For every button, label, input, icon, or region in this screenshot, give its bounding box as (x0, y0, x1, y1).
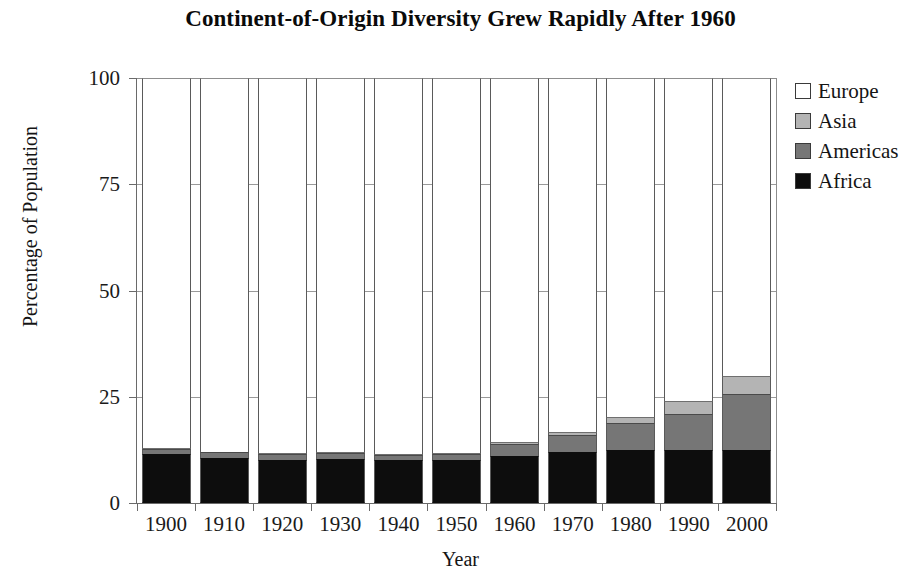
bar-1980[interactable] (606, 78, 655, 503)
bar-1900[interactable] (142, 78, 191, 503)
bar-segment-asia[interactable] (374, 454, 423, 455)
bar-1940[interactable] (374, 78, 423, 503)
legend-label: Europe (818, 81, 879, 102)
chart-title: Continent-of-Origin Diversity Grew Rapid… (0, 6, 921, 32)
y-axis-tick (129, 184, 136, 185)
bar-segment-europe[interactable] (142, 78, 191, 448)
bar-segment-europe[interactable] (490, 78, 539, 442)
bar-segment-europe[interactable] (374, 78, 423, 454)
legend-item-africa[interactable]: Africa (795, 166, 921, 196)
bar-1960[interactable] (490, 78, 539, 503)
y-axis-tick-label: 0 (0, 491, 120, 516)
x-axis-tick (544, 503, 545, 511)
x-axis-tick-label: 1950 (427, 512, 485, 537)
legend-swatch-icon (795, 173, 811, 189)
x-axis-title: Year (0, 548, 921, 571)
legend-item-americas[interactable]: Americas (795, 136, 921, 166)
bar-1910[interactable] (200, 78, 249, 503)
bar-1920[interactable] (258, 78, 307, 503)
bar-segment-europe[interactable] (606, 78, 655, 417)
y-axis-title: Percentage of Population (19, 47, 42, 407)
bar-segment-europe[interactable] (200, 78, 249, 452)
x-axis-tick-label: 1930 (311, 512, 369, 537)
x-axis-tick-label: 1940 (369, 512, 427, 537)
bar-2000[interactable] (722, 78, 771, 503)
bar-segment-americas[interactable] (200, 452, 249, 458)
x-axis-tick-label: 1920 (253, 512, 311, 537)
legend-swatch-icon (795, 83, 811, 99)
y-axis-tick (129, 291, 136, 292)
bar-segment-europe[interactable] (548, 78, 597, 432)
x-axis-tick (427, 503, 428, 511)
legend-label: Americas (818, 141, 898, 162)
x-axis-tick (718, 503, 719, 511)
bar-1930[interactable] (316, 78, 365, 503)
bar-segment-americas[interactable] (142, 449, 191, 454)
plot-area (137, 78, 776, 503)
bar-segment-asia[interactable] (606, 417, 655, 423)
bar-segment-africa[interactable] (606, 450, 655, 503)
bar-segment-americas[interactable] (374, 455, 423, 461)
bar-segment-africa[interactable] (490, 456, 539, 503)
bar-segment-africa[interactable] (200, 458, 249, 503)
bar-segment-asia[interactable] (548, 432, 597, 435)
bar-segment-europe[interactable] (316, 78, 365, 452)
x-axis-tick-label: 2000 (718, 512, 776, 537)
bar-segment-americas[interactable] (316, 453, 365, 459)
plot-right-border (776, 78, 777, 504)
legend-label: Asia (818, 111, 857, 132)
bar-segment-asia[interactable] (490, 442, 539, 444)
legend-swatch-icon (795, 143, 811, 159)
bar-segment-americas[interactable] (490, 444, 539, 456)
bar-segment-asia[interactable] (664, 401, 713, 414)
bar-segment-americas[interactable] (664, 414, 713, 451)
bar-1970[interactable] (548, 78, 597, 503)
legend-item-asia[interactable]: Asia (795, 106, 921, 136)
bar-segment-africa[interactable] (548, 452, 597, 503)
x-axis-tick-label: 1900 (137, 512, 195, 537)
bar-segment-americas[interactable] (548, 435, 597, 452)
bar-segment-americas[interactable] (722, 394, 771, 450)
bar-segment-europe[interactable] (722, 78, 771, 376)
y-axis-tick (129, 78, 136, 79)
bar-segment-europe[interactable] (258, 78, 307, 453)
x-axis-tick-label: 1970 (544, 512, 602, 537)
x-axis-tick-label: 1980 (602, 512, 660, 537)
bar-segment-africa[interactable] (142, 454, 191, 503)
bar-segment-africa[interactable] (432, 460, 481, 503)
x-axis-tick (776, 503, 777, 511)
bar-segment-africa[interactable] (722, 450, 771, 503)
bar-segment-americas[interactable] (258, 454, 307, 460)
bar-segment-asia[interactable] (722, 376, 771, 394)
x-axis-tick-label: 1960 (486, 512, 544, 537)
bar-segment-europe[interactable] (664, 78, 713, 401)
bar-segment-africa[interactable] (316, 459, 365, 503)
x-axis-tick (602, 503, 603, 511)
legend-swatch-icon (795, 113, 811, 129)
x-axis-tick (311, 503, 312, 511)
x-axis-tick (137, 503, 138, 511)
chart-container: Continent-of-Origin Diversity Grew Rapid… (0, 0, 921, 582)
bar-1950[interactable] (432, 78, 481, 503)
legend-item-europe[interactable]: Europe (795, 76, 921, 106)
legend-label: Africa (818, 171, 872, 192)
x-axis-tick-label: 1990 (660, 512, 718, 537)
x-axis-tick (195, 503, 196, 511)
x-axis-tick (253, 503, 254, 511)
x-axis-tick-label: 1910 (195, 512, 253, 537)
bar-segment-americas[interactable] (606, 423, 655, 450)
x-axis-line (136, 503, 777, 504)
bar-segment-africa[interactable] (374, 460, 423, 503)
x-axis-tick (660, 503, 661, 511)
bar-segment-africa[interactable] (258, 460, 307, 503)
bar-segment-asia[interactable] (200, 451, 249, 452)
y-axis-tick (129, 503, 136, 504)
x-axis-tick (369, 503, 370, 511)
bar-segment-europe[interactable] (432, 78, 481, 453)
bar-segment-americas[interactable] (432, 454, 481, 460)
x-axis-tick (486, 503, 487, 511)
y-axis-tick (129, 397, 136, 398)
bar-1990[interactable] (664, 78, 713, 503)
bar-segment-africa[interactable] (664, 450, 713, 503)
chart-legend: EuropeAsiaAmericasAfrica (795, 76, 921, 196)
